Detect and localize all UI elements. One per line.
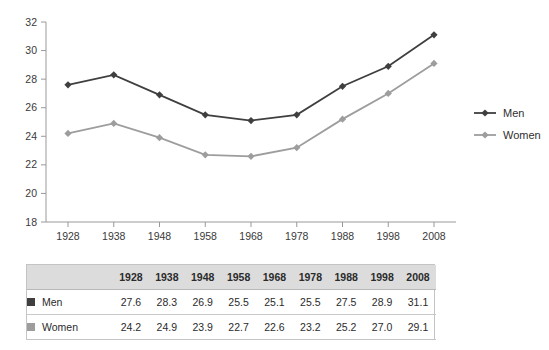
series-swatch-icon (27, 298, 35, 306)
x-tick-label: 1948 (148, 230, 172, 242)
table-row-header: Women (27, 315, 113, 340)
y-tick-label: 30 (25, 44, 37, 56)
table-cell: 23.9 (185, 315, 221, 340)
y-tick-label: 24 (25, 130, 37, 142)
data-point-marker (156, 91, 163, 98)
table-cell: 28.3 (149, 290, 185, 315)
legend-item-women[interactable]: Women (474, 129, 541, 141)
x-tick-label: 1958 (194, 230, 218, 242)
table-row: Women 24.2 24.9 23.9 22.7 22.6 23.2 25.2… (27, 315, 436, 340)
x-tick-label: 1938 (102, 230, 126, 242)
table-col-header: 1958 (221, 265, 257, 290)
table-col-header: 1938 (149, 265, 185, 290)
table-cell: 31.1 (400, 290, 436, 315)
table-cell: 26.9 (185, 290, 221, 315)
series-women (64, 60, 437, 160)
table-col-header: 1998 (364, 265, 400, 290)
data-point-marker (202, 151, 209, 158)
y-tick-label: 18 (25, 216, 37, 228)
table-col-header: 1928 (113, 265, 149, 290)
table-col-header: 1978 (292, 265, 328, 290)
data-point-marker (64, 130, 71, 137)
table-cell: 25.5 (292, 290, 328, 315)
x-tick-label: 1928 (56, 230, 80, 242)
table-col-header: 1948 (185, 265, 221, 290)
y-tick-label: 22 (25, 158, 37, 170)
table-row: Men 27.6 28.3 26.9 25.5 25.1 25.5 27.5 2… (27, 290, 436, 315)
y-tick-label: 26 (25, 101, 37, 113)
table-cell: 24.2 (113, 315, 149, 340)
table-cell: 25.5 (221, 290, 257, 315)
data-table-container: 1928 1938 1948 1958 1968 1978 1988 1998 … (26, 264, 435, 340)
data-point-marker (110, 120, 117, 127)
series-layer (64, 31, 437, 160)
line-chart: 1820222426283032 19281938194819581968197… (0, 0, 549, 252)
legend-item-men[interactable]: Men (474, 107, 524, 119)
table-cell: 23.2 (292, 315, 328, 340)
table-header-row: 1928 1938 1948 1958 1968 1978 1988 1998 … (27, 265, 436, 290)
table-row-header: Men (27, 290, 113, 315)
data-point-marker (110, 71, 117, 78)
x-tick-label: 2008 (422, 230, 446, 242)
table-col-header: 1988 (328, 265, 364, 290)
table-cell: 27.5 (328, 290, 364, 315)
data-point-marker (64, 81, 71, 88)
series-men (64, 31, 437, 124)
x-tick-label: 1988 (331, 230, 355, 242)
x-tick-label: 1978 (285, 230, 309, 242)
x-tick-label: 1968 (239, 230, 263, 242)
table-cell: 22.7 (221, 315, 257, 340)
legend-label: Men (503, 107, 524, 119)
table-cell: 25.2 (328, 315, 364, 340)
data-point-marker (202, 111, 209, 118)
table-cell: 22.6 (257, 315, 293, 340)
table-row-label: Men (42, 296, 62, 308)
table-head: 1928 1938 1948 1958 1968 1978 1988 1998 … (27, 265, 436, 290)
y-tick-label: 28 (25, 73, 37, 85)
table-row-label: Women (42, 321, 78, 333)
table-col-header: 1968 (257, 265, 293, 290)
x-tick-label: 1998 (377, 230, 401, 242)
y-tick-label: 20 (25, 187, 37, 199)
table-cell: 24.9 (149, 315, 185, 340)
x-axis-ticks: 192819381948195819681978198819982008 (56, 222, 446, 242)
table-cell: 28.9 (364, 290, 400, 315)
table-cell: 29.1 (400, 315, 436, 340)
table-corner-header (27, 265, 113, 290)
table-cell: 27.6 (113, 290, 149, 315)
table-cell: 25.1 (257, 290, 293, 315)
data-point-marker (156, 134, 163, 141)
table-body: Men 27.6 28.3 26.9 25.5 25.1 25.5 27.5 2… (27, 290, 436, 340)
chart-legend: MenWomen (474, 107, 541, 141)
data-table: 1928 1938 1948 1958 1968 1978 1988 1998 … (27, 265, 436, 340)
series-swatch-icon (27, 323, 35, 331)
table-cell: 27.0 (364, 315, 400, 340)
table-col-header: 2008 (400, 265, 436, 290)
y-axis-ticks: 1820222426283032 (25, 16, 46, 228)
data-point-marker (247, 153, 254, 160)
chart-svg: 1820222426283032 19281938194819581968197… (0, 0, 549, 252)
legend-label: Women (503, 129, 541, 141)
data-point-marker (247, 117, 254, 124)
y-tick-label: 32 (25, 16, 37, 28)
